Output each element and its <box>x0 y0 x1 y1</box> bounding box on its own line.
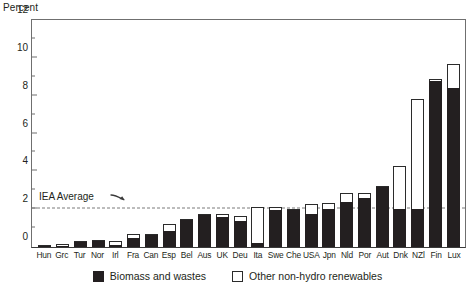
legend-label: Biomass and wastes <box>110 270 206 282</box>
bar-segment-biomass-wastes <box>74 242 87 247</box>
x-tick-label: Deu <box>231 250 249 260</box>
y-tick-label: 4 <box>22 156 28 166</box>
x-tick-label: UK <box>213 250 231 260</box>
x-tick-label: Swe <box>267 250 285 260</box>
stacked-bar[interactable] <box>269 207 282 247</box>
x-tick-label: Ita <box>249 250 267 260</box>
bar-segment-biomass-wastes <box>127 238 140 247</box>
x-tick-label: Can <box>142 250 160 260</box>
bar-slot <box>373 20 391 247</box>
x-tick-label: Bel <box>178 250 196 260</box>
bar-slot <box>427 20 445 247</box>
x-tick-label: Nld <box>338 250 356 260</box>
stacked-bar[interactable] <box>429 79 442 247</box>
stacked-bar[interactable] <box>127 234 140 247</box>
iea-average-arrow-icon <box>110 192 128 204</box>
bar-slot <box>178 20 196 247</box>
x-tick-label: Irl <box>106 250 124 260</box>
iea-average-label: IEA Average <box>39 191 94 202</box>
bar-segment-biomass-wastes <box>305 214 318 247</box>
stacked-bar[interactable] <box>216 214 229 247</box>
bar-segment-biomass-wastes <box>322 209 335 247</box>
legend-item[interactable]: Other non-hydro renewables <box>232 270 382 282</box>
y-tick-label: 10 <box>17 43 28 53</box>
bar-segment-biomass-wastes <box>358 198 371 247</box>
stacked-bar[interactable] <box>163 224 176 247</box>
stacked-bar[interactable] <box>92 240 105 247</box>
bar-segment-biomass-wastes <box>234 221 247 247</box>
x-tick-label: Nor <box>88 250 106 260</box>
x-tick-label: Hun <box>35 250 53 260</box>
x-tick-label: NZl <box>409 250 427 260</box>
x-tick-label: USA <box>302 250 320 260</box>
bar-slot <box>160 20 178 247</box>
x-tick-label: Fin <box>427 250 445 260</box>
x-tick-label: Grc <box>53 250 71 260</box>
bar-slot <box>196 20 214 247</box>
bar-slot <box>72 20 90 247</box>
bar-slot <box>356 20 374 247</box>
bar-segment-biomass-wastes <box>447 88 460 247</box>
bar-segment-biomass-wastes <box>38 246 51 247</box>
x-tick-label: Por <box>356 250 374 260</box>
bar-segment-other-renewables <box>340 193 353 202</box>
bar-slot <box>36 20 54 247</box>
chart-legend: Biomass and wastesOther non-hydro renewa… <box>0 270 475 282</box>
y-tick-label: 8 <box>22 81 28 91</box>
stacked-bar[interactable] <box>145 234 158 247</box>
stacked-bar[interactable] <box>447 64 460 247</box>
bar-slot <box>107 20 125 247</box>
stacked-bar[interactable] <box>376 186 389 247</box>
chart-figure: Percent 024681012 IEA Average HunGrcTurN… <box>0 0 475 290</box>
stacked-bar[interactable] <box>109 241 122 247</box>
bar-segment-other-renewables <box>411 99 424 210</box>
bar-slot <box>214 20 232 247</box>
stacked-bar[interactable] <box>340 193 353 247</box>
bar-segment-biomass-wastes <box>411 209 424 247</box>
stacked-bar[interactable] <box>358 193 371 247</box>
bar-segment-biomass-wastes <box>340 202 353 247</box>
bar-segment-biomass-wastes <box>269 210 282 247</box>
stacked-bar[interactable] <box>322 203 335 247</box>
stacked-bar[interactable] <box>393 166 406 247</box>
stacked-bar[interactable] <box>305 204 318 247</box>
stacked-bar[interactable] <box>74 241 87 247</box>
stacked-bar[interactable] <box>411 99 424 247</box>
bar-slot <box>267 20 285 247</box>
bar-segment-other-renewables <box>305 204 318 214</box>
bar-slot <box>320 20 338 247</box>
x-tick-label: Esp <box>160 250 178 260</box>
x-tick-label: Lux <box>445 250 463 260</box>
bar-segment-other-renewables <box>322 203 335 210</box>
bar-segment-biomass-wastes <box>429 81 442 247</box>
y-tick-label: 6 <box>22 119 28 129</box>
bar-slot <box>143 20 161 247</box>
x-axis-labels: HunGrcTurNorIrlFraCanEspBelAusUKDeuItaSw… <box>31 250 466 260</box>
stacked-bar[interactable] <box>180 219 193 247</box>
legend-item[interactable]: Biomass and wastes <box>93 270 206 282</box>
x-tick-label: Aus <box>195 250 213 260</box>
stacked-bar[interactable] <box>198 214 211 247</box>
bar-segment-biomass-wastes <box>163 231 176 247</box>
stacked-bar[interactable] <box>287 209 300 247</box>
bar-segment-biomass-wastes <box>109 245 122 247</box>
stacked-bar[interactable] <box>234 216 247 247</box>
bar-segment-other-renewables <box>251 207 264 243</box>
bar-slot <box>89 20 107 247</box>
stacked-bar[interactable] <box>56 244 69 247</box>
y-tick-label: 0 <box>22 232 28 242</box>
bar-segment-other-renewables <box>163 224 176 231</box>
stacked-bar[interactable] <box>251 207 264 247</box>
bar-slot <box>231 20 249 247</box>
legend-swatch-other-renewables-icon <box>232 271 243 282</box>
bar-segment-biomass-wastes <box>180 220 193 247</box>
x-tick-label: Che <box>285 250 303 260</box>
bar-segment-biomass-wastes <box>251 243 264 247</box>
bar-slot <box>249 20 267 247</box>
x-tick-label: Tur <box>71 250 89 260</box>
bar-segment-biomass-wastes <box>56 246 69 247</box>
plot-area: 024681012 <box>31 19 466 248</box>
stacked-bar[interactable] <box>38 245 51 247</box>
bar-segment-biomass-wastes <box>287 210 300 247</box>
bar-slot <box>338 20 356 247</box>
